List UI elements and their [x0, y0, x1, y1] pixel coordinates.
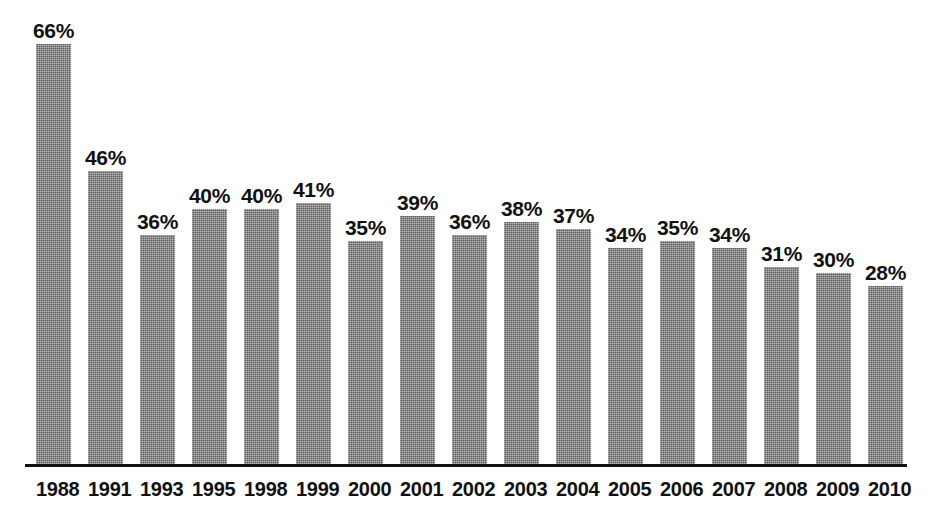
bar-value-label: 35%	[345, 217, 386, 238]
bar-group: 34%	[608, 248, 643, 464]
bar-value-label: 35%	[657, 217, 698, 238]
bar-group: 31%	[764, 267, 799, 464]
bar-value-label: 31%	[761, 243, 802, 264]
bar	[764, 267, 799, 464]
bar-group: 36%	[140, 235, 175, 464]
bar	[192, 209, 227, 464]
bar	[816, 273, 851, 464]
bar-group: 36%	[452, 235, 487, 464]
bar-value-label: 30%	[813, 249, 854, 270]
bar	[556, 229, 591, 464]
bar-value-label: 28%	[865, 262, 906, 283]
bar	[140, 235, 175, 464]
bar-chart-figure: 66%46%36%40%40%41%35%39%36%38%37%34%35%3…	[0, 0, 932, 515]
bar	[608, 248, 643, 464]
bar-group: 39%	[400, 216, 435, 464]
x-axis-tick-label: 2006	[660, 479, 695, 499]
bar-group: 34%	[712, 248, 747, 464]
bar-value-label: 46%	[85, 147, 126, 168]
bar-group: 46%	[88, 171, 123, 464]
bar	[348, 241, 383, 464]
bar-value-label: 37%	[553, 205, 594, 226]
bar-value-label: 36%	[137, 211, 178, 232]
x-axis-tick-label: 1998	[244, 479, 279, 499]
bar-value-label: 34%	[605, 224, 646, 245]
plot-area: 66%46%36%40%40%41%35%39%36%38%37%34%35%3…	[0, 0, 932, 515]
bar-value-label: 40%	[189, 185, 230, 206]
bar	[36, 44, 71, 464]
bar-value-label: 36%	[449, 211, 490, 232]
category-axis-line	[25, 464, 907, 467]
x-axis-tick-label: 2009	[816, 479, 851, 499]
x-axis-tick-label: 2001	[400, 479, 435, 499]
bar	[400, 216, 435, 464]
bar-group: 35%	[348, 241, 383, 464]
bar-group: 41%	[296, 203, 331, 464]
x-axis-tick-label: 2003	[504, 479, 539, 499]
x-axis-tick-label: 1999	[296, 479, 331, 499]
x-axis-tick-label: 2007	[712, 479, 747, 499]
bar-group: 37%	[556, 229, 591, 464]
bar-group: 40%	[244, 209, 279, 464]
bar-value-label: 39%	[397, 192, 438, 213]
bar	[868, 286, 903, 464]
bar-group: 35%	[660, 241, 695, 464]
bar	[244, 209, 279, 464]
bar-group: 30%	[816, 273, 851, 464]
x-axis-tick-label: 1988	[36, 479, 71, 499]
bar-group: 28%	[868, 286, 903, 464]
x-axis-tick-label: 1993	[140, 479, 175, 499]
bar	[452, 235, 487, 464]
bar-group: 40%	[192, 209, 227, 464]
x-axis-tick-label: 2008	[764, 479, 799, 499]
bar-value-label: 38%	[501, 198, 542, 219]
x-axis-tick-label: 2005	[608, 479, 643, 499]
x-axis-tick-label: 2004	[556, 479, 591, 499]
bar	[504, 222, 539, 464]
bar-value-label: 40%	[241, 185, 282, 206]
bar-value-label: 41%	[293, 179, 334, 200]
bar-group: 38%	[504, 222, 539, 464]
bar	[296, 203, 331, 464]
x-axis-tick-label: 1995	[192, 479, 227, 499]
bar	[712, 248, 747, 464]
bar	[660, 241, 695, 464]
x-axis-tick-label: 1991	[88, 479, 123, 499]
bar	[88, 171, 123, 464]
bar-value-label: 34%	[709, 224, 750, 245]
bar-group: 66%	[36, 44, 71, 464]
bar-value-label: 66%	[33, 20, 74, 41]
x-axis-tick-label: 2000	[348, 479, 383, 499]
x-axis-tick-label: 2002	[452, 479, 487, 499]
x-axis-tick-label: 2010	[868, 479, 903, 499]
